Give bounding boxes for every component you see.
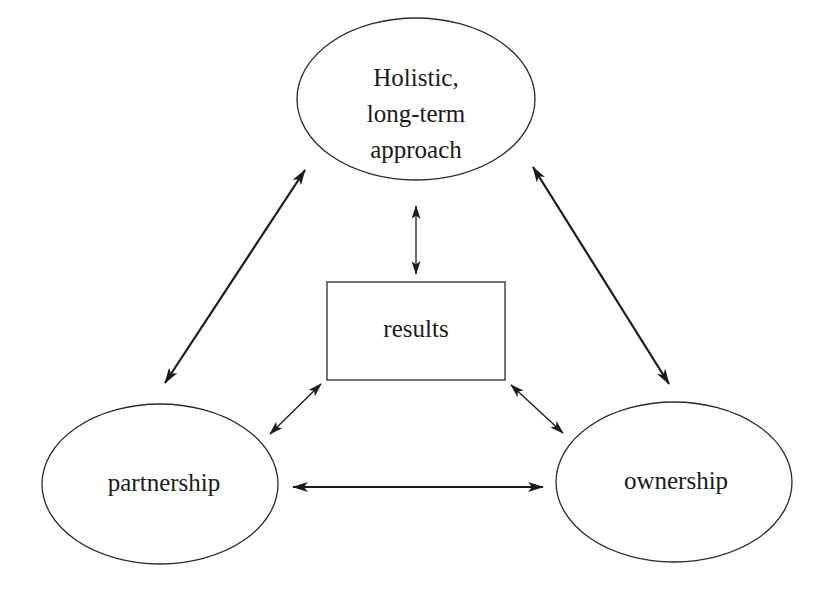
node-top-line-3: approach	[370, 136, 462, 163]
node-results: results	[327, 282, 505, 380]
diagram-canvas: Holistic, long-term approach results par…	[0, 0, 831, 598]
node-ownership: ownership	[556, 402, 792, 562]
arrow-top-left	[165, 170, 305, 383]
arrow-top-right	[533, 167, 669, 384]
ownership-label: ownership	[624, 467, 728, 494]
node-partnership: partnership	[42, 404, 278, 564]
arrow-center-left	[270, 384, 321, 434]
node-holistic-approach: Holistic, long-term approach	[297, 18, 535, 180]
node-top-line-1: Holistic,	[373, 64, 458, 91]
arrow-center-right	[511, 385, 563, 433]
node-top-line-2: long-term	[367, 100, 466, 127]
partnership-label: partnership	[108, 469, 220, 496]
results-label: results	[383, 315, 448, 342]
